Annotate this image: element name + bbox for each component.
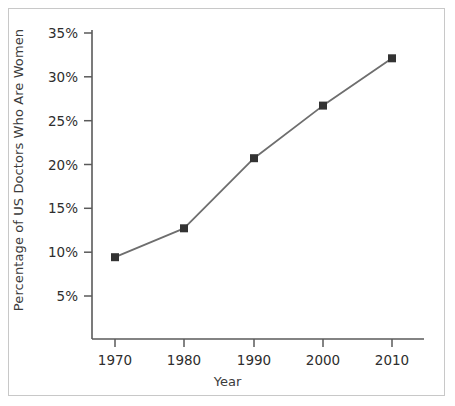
data-point-1990 bbox=[250, 154, 258, 162]
x-tick-label-1970: 1970 bbox=[85, 352, 145, 368]
chart-page: Percentage of US Doctors Who Are Women 3… bbox=[0, 0, 455, 406]
x-tick-label-1980: 1980 bbox=[154, 352, 214, 368]
y-tick-label-10: 10% bbox=[30, 245, 78, 259]
data-point-2000 bbox=[319, 102, 327, 110]
data-point-1980 bbox=[180, 224, 188, 232]
y-tick-label-35: 35% bbox=[30, 26, 78, 40]
data-point-2010 bbox=[388, 54, 396, 62]
y-axis-title-text: Percentage of US Doctors Who Are Women bbox=[11, 29, 26, 311]
data-point-1970 bbox=[111, 253, 119, 261]
x-tick-label-2010: 2010 bbox=[362, 352, 422, 368]
y-axis-tick-labels: 35% 30% 25% 20% 15% 10% 5% bbox=[30, 0, 78, 406]
y-axis-ticks bbox=[84, 33, 92, 296]
y-tick-label-15: 15% bbox=[30, 201, 78, 215]
x-tick-label-2000: 2000 bbox=[293, 352, 353, 368]
x-axis-title: Year bbox=[0, 374, 455, 389]
y-tick-label-25: 25% bbox=[30, 114, 78, 128]
y-tick-label-30: 30% bbox=[30, 70, 78, 84]
x-tick-label-1990: 1990 bbox=[224, 352, 284, 368]
y-tick-label-20: 20% bbox=[30, 158, 78, 172]
y-tick-label-5: 5% bbox=[30, 289, 78, 303]
plot-background bbox=[92, 28, 422, 338]
x-axis-ticks bbox=[115, 339, 392, 347]
